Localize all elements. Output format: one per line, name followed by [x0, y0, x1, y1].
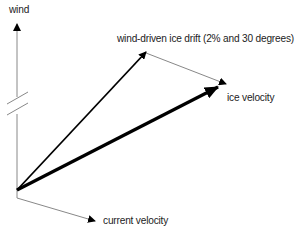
drift-connector-vector [146, 53, 226, 84]
current-velocity-label: current velocity [103, 214, 168, 226]
axis-break-mark [7, 103, 28, 115]
ice-velocity-vector [17, 87, 218, 190]
current-velocity-vector [17, 198, 95, 221]
wind-axis [7, 24, 28, 198]
wind-drift-label: wind-driven ice drift (2% and 30 degrees… [117, 32, 294, 44]
ice-velocity-vector-diagram: wind wind-driven ice drift (2% and 30 de… [0, 0, 299, 237]
wind-drift-vector [17, 52, 146, 190]
wind-label: wind [9, 3, 29, 15]
ice-velocity-label: ice velocity [227, 91, 274, 103]
